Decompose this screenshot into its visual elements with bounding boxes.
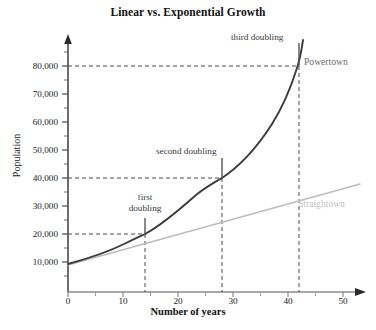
chart-plot-area xyxy=(0,0,376,330)
y-tick-label-30000: 30,000 xyxy=(14,201,58,211)
y-tick-label-80000: 80,000 xyxy=(14,61,58,71)
y-tick-label-10000: 10,000 xyxy=(14,257,58,267)
x-axis xyxy=(68,288,366,296)
y-tick-label-20000: 20,000 xyxy=(14,229,58,239)
y-axis xyxy=(64,34,72,292)
annotation-first-doubling: first doubling xyxy=(112,192,178,214)
x-tick-label-40: 40 xyxy=(273,296,303,306)
y-tick-label-70000: 70,000 xyxy=(14,89,58,99)
annotation-third-doubling: third doubling xyxy=(231,32,283,43)
annotation-first-doubling-line1: first xyxy=(112,192,178,203)
annotation-second-doubling: second doubling xyxy=(156,146,216,157)
x-tick-label-30: 30 xyxy=(218,296,248,306)
x-tick-label-50: 50 xyxy=(328,296,358,306)
series-label-straightown: Straightown xyxy=(298,198,345,209)
x-tick-label-20: 20 xyxy=(163,296,193,306)
y-axis-title: Population xyxy=(11,116,22,196)
chart-figure: Linear vs. Exponential Growth xyxy=(0,0,376,330)
x-tick-label-10: 10 xyxy=(108,296,138,306)
annotation-first-doubling-line2: doubling xyxy=(112,203,178,214)
x-axis-title: Number of years xyxy=(0,306,376,317)
series-label-powertown: Powertown xyxy=(304,56,348,67)
x-tick-label-0: 0 xyxy=(53,296,83,306)
